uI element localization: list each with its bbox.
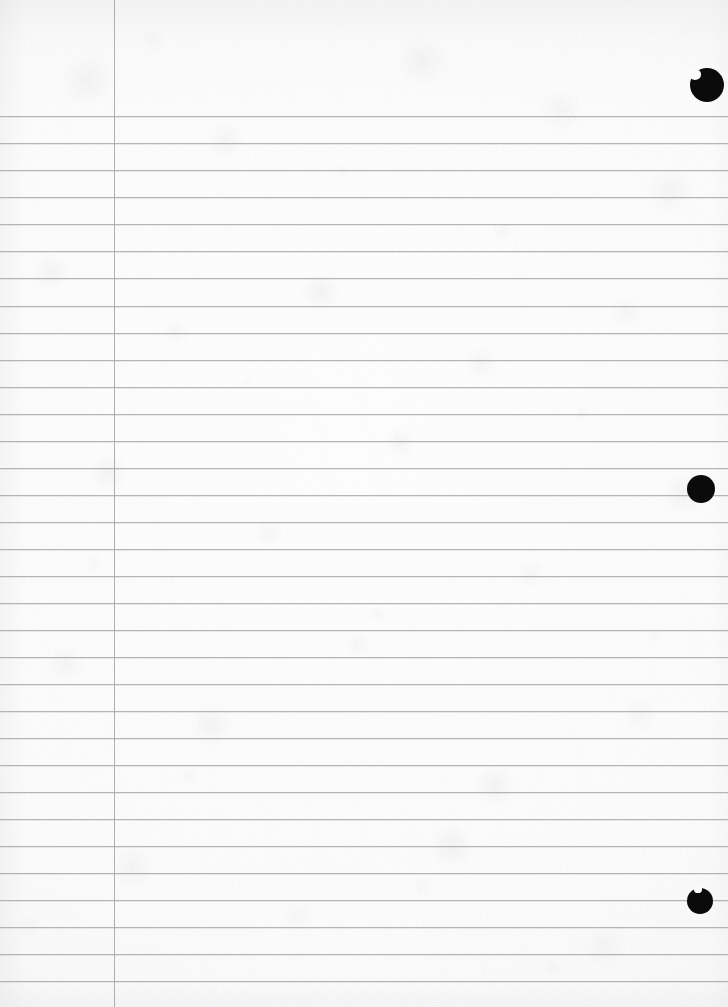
- scanned-notebook-page: [0, 0, 728, 1007]
- punch-hole-middle: [687, 475, 715, 503]
- punch-holes-group: [0, 0, 728, 1007]
- punch-hole-top: [690, 68, 724, 102]
- punch-hole-bottom: [687, 888, 713, 914]
